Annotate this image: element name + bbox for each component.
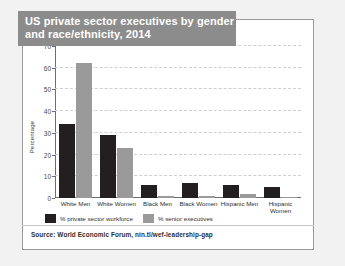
legend-label: % private sector workforce [60,215,133,222]
bar [100,135,116,198]
y-tick-label-60: 60 [44,64,51,71]
y-tick-label-0: 0 [47,195,51,202]
chart-legend: % private sector workforce% senior execu… [45,214,213,223]
y-tick-label-20: 20 [44,151,51,158]
bar [281,197,297,198]
page-title-line-2: and race/ethnicity, 2014 [25,28,229,41]
page-title-line-1: US private sector executives by gender [25,15,229,28]
y-tick-label-50: 50 [44,86,51,93]
legend-swatch [143,214,154,223]
bar [223,185,239,198]
y-tick-label-10: 10 [44,173,51,180]
x-axis-category-label: Black Women [178,200,219,215]
bar-group [55,46,96,198]
legend-swatch [45,214,56,223]
bar-group [96,46,137,198]
x-axis-category-label: White Women [96,200,137,215]
x-axis-category-labels: White MenWhite WomenBlack MenBlack Women… [55,200,301,215]
y-tick-mark-0 [52,198,55,199]
bar-groups [55,46,301,198]
x-axis-category-label: Hispanic Women [260,200,301,215]
bar [117,148,133,198]
bar [141,185,157,198]
bar-group [137,46,178,198]
chart-figure: Percentage 010203040506070 White MenWhit… [22,19,314,250]
x-axis-category-label: Hispanic Men [219,200,260,215]
bar [59,124,75,198]
x-axis-category-label: Black Men [137,200,178,215]
bar [158,196,174,198]
bar [240,194,256,198]
legend-item: % senior executives [143,214,213,223]
bar [199,196,215,198]
x-axis-category-label: White Men [55,200,96,215]
bar [182,183,198,198]
y-tick-label-40: 40 [44,108,51,115]
bar [76,63,92,198]
y-axis-label: Percentage [29,102,35,172]
chart-title-banner: US private sector executives by gender a… [18,11,236,46]
plot-area: 010203040506070 [55,46,301,198]
y-tick-label-30: 30 [44,129,51,136]
source-divider [22,225,314,226]
bar-group [178,46,219,198]
legend-item: % private sector workforce [45,214,133,223]
legend-label: % senior executives [158,215,213,222]
bar-group [219,46,260,198]
bar [264,187,280,198]
bar-group [260,46,301,198]
source-note: Source: World Economic Forum, nin.tl/wef… [31,231,213,238]
